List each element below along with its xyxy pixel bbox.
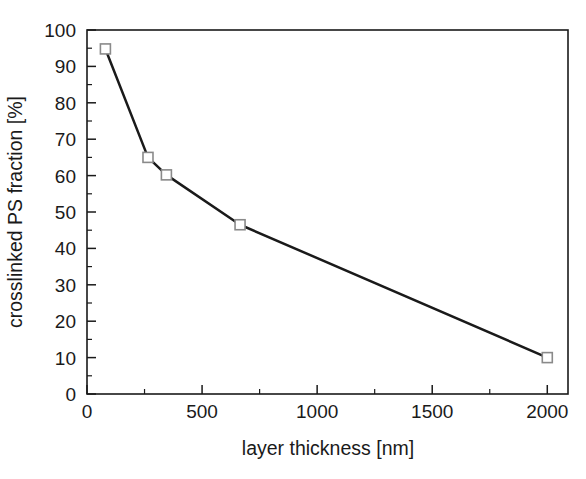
chart-figure: 0500100015002000 0102030405060708090100 …: [0, 0, 586, 479]
y-tick-label: 20: [55, 311, 76, 332]
x-tick-label: 1000: [296, 401, 338, 422]
y-tick-label: 10: [55, 348, 76, 369]
data-point-marker: [235, 220, 245, 230]
y-tick-label: 90: [55, 56, 76, 77]
x-axis-title: layer thickness [nm]: [242, 437, 414, 459]
y-tick-label: 30: [55, 275, 76, 296]
x-tick-label: 1500: [411, 401, 453, 422]
y-tick-label: 40: [55, 238, 76, 259]
x-tick-label: 0: [82, 401, 93, 422]
x-axis-tick-labels: 0500100015002000: [82, 401, 569, 422]
x-tick-label: 2000: [526, 401, 568, 422]
x-tick-label: 500: [186, 401, 218, 422]
y-tick-label: 80: [55, 93, 76, 114]
data-point-marker: [542, 353, 552, 363]
x-axis-ticks: [87, 385, 547, 394]
data-point-marker: [143, 152, 153, 162]
y-tick-label: 60: [55, 166, 76, 187]
plot-frame: [87, 30, 568, 394]
data-series-markers: [100, 44, 552, 363]
y-tick-label: 0: [65, 384, 76, 405]
line-chart: 0500100015002000 0102030405060708090100 …: [0, 0, 586, 479]
y-axis-title: crosslinked PS fraction [%]: [4, 96, 26, 328]
y-tick-label: 70: [55, 129, 76, 150]
y-axis-tick-labels: 0102030405060708090100: [44, 20, 76, 405]
data-point-marker: [161, 170, 171, 180]
y-tick-label: 50: [55, 202, 76, 223]
data-point-marker: [100, 44, 110, 54]
y-tick-label: 100: [44, 20, 76, 41]
data-series-line: [105, 49, 547, 358]
y-axis-ticks: [87, 30, 96, 394]
